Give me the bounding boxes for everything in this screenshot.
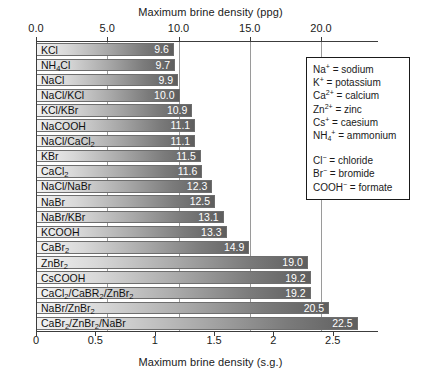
top-tick-label: 0.0 bbox=[28, 22, 43, 34]
bar-value-label: 11.1 bbox=[171, 136, 195, 147]
legend-cation-entry: Zn2+ = zinc bbox=[313, 103, 404, 116]
bar: 14.9 bbox=[37, 241, 249, 254]
bottom-tick-label: 2 bbox=[270, 334, 276, 346]
top-tick-label: 15.0 bbox=[239, 22, 260, 34]
bar-value-label: 19.2 bbox=[285, 288, 309, 299]
top-axis-tick-labels: 0.05.010.015.020.0 bbox=[0, 22, 421, 35]
bar-row: 22.5CaBr2/ZnBr2/NaBr bbox=[37, 317, 378, 330]
bar-row: 19.2CaCl2/CaBR2/ZnBr2 bbox=[37, 287, 378, 300]
bar-value-label: 13.3 bbox=[201, 227, 225, 238]
bar-value-label: 22.5 bbox=[332, 318, 356, 329]
bar-row: 19.0ZnBr2 bbox=[37, 256, 378, 269]
bar-value-label: 11.1 bbox=[171, 120, 195, 131]
bottom-tick-label: 0.5 bbox=[88, 334, 103, 346]
top-tick-label: 20.0 bbox=[310, 22, 331, 34]
bottom-axis-tick-labels: 00.511.522.5 bbox=[0, 334, 421, 347]
bar-row: 20.5NaBr/ZnBr2 bbox=[37, 302, 378, 315]
bar: 13.1 bbox=[37, 211, 224, 224]
brine-density-chart: Maximum brine density (ppg) 0.05.010.015… bbox=[0, 0, 421, 377]
bar-value-label: 10.0 bbox=[154, 90, 178, 101]
legend-cation-entry: Ca2+ = calcium bbox=[313, 89, 404, 102]
bar: 12.3 bbox=[37, 180, 212, 193]
bottom-tick-label: 0 bbox=[33, 334, 39, 346]
bar-value-label: 9.6 bbox=[154, 44, 173, 55]
top-tick-label: 10.0 bbox=[168, 22, 189, 34]
bar-value-label: 13.1 bbox=[198, 212, 222, 223]
top-axis-title: Maximum brine density (ppg) bbox=[0, 6, 421, 18]
bar: 19.0 bbox=[37, 256, 308, 269]
bottom-tick-label: 2.5 bbox=[325, 334, 340, 346]
bar-value-label: 14.9 bbox=[224, 242, 248, 253]
bar: 11.5 bbox=[37, 150, 201, 163]
bar: 12.5 bbox=[37, 195, 215, 208]
bottom-axis-line bbox=[36, 331, 378, 332]
bar-value-label: 19.2 bbox=[285, 273, 309, 284]
bar-row: 19.2CsCOOH bbox=[37, 271, 378, 284]
bar: 19.2 bbox=[37, 271, 311, 284]
bar: 19.2 bbox=[37, 287, 311, 300]
legend-cation-list: Na+ = sodiumK+ = potassiumCa2+ = calcium… bbox=[313, 63, 404, 143]
bar-value-label: 9.9 bbox=[158, 75, 177, 86]
legend-anion-entry: COOH− = formate bbox=[313, 181, 404, 194]
bottom-tick-label: 1 bbox=[152, 334, 158, 346]
bar: 9.7 bbox=[37, 59, 175, 72]
bar-value-label: 19.0 bbox=[282, 257, 306, 268]
bar: 9.6 bbox=[37, 43, 174, 56]
bar-value-label: 9.7 bbox=[156, 60, 175, 71]
legend-anion-entry: Cl− = chloride bbox=[313, 154, 404, 167]
bottom-axis-title: Maximum brine density (s.g.) bbox=[0, 356, 421, 368]
bar: 13.3 bbox=[37, 226, 227, 239]
bar-value-label: 12.3 bbox=[187, 181, 211, 192]
bar: 11.1 bbox=[37, 119, 195, 132]
bar-value-label: 11.5 bbox=[176, 151, 200, 162]
bar-row: 13.3KCOOH bbox=[37, 226, 378, 239]
legend-anion-entry: Br− = bromide bbox=[313, 167, 404, 180]
bar: 20.5 bbox=[37, 302, 329, 315]
legend-box: Na+ = sodiumK+ = potassiumCa2+ = calcium… bbox=[306, 57, 410, 200]
bar-value-label: 10.9 bbox=[167, 105, 191, 116]
legend-cation-entry: Na+ = sodium bbox=[313, 63, 404, 76]
legend-spacer bbox=[313, 143, 404, 154]
bar: 10.0 bbox=[37, 89, 180, 102]
legend-anion-list: Cl− = chlorideBr− = bromideCOOH− = forma… bbox=[313, 154, 404, 194]
bar: 11.6 bbox=[37, 165, 202, 178]
legend-cation-entry: NH4+ = ammonium bbox=[313, 129, 404, 143]
bar-row: 13.1NaBr/KBr bbox=[37, 211, 378, 224]
bottom-tick-label: 1.5 bbox=[206, 334, 221, 346]
legend-cation-entry: K+ = potassium bbox=[313, 76, 404, 89]
bar-value-label: 11.6 bbox=[178, 166, 202, 177]
bar: 9.9 bbox=[37, 74, 178, 87]
bar-row: 9.6KCl bbox=[37, 43, 378, 56]
bar-value-label: 20.5 bbox=[304, 303, 328, 314]
top-tick-label: 5.0 bbox=[100, 22, 115, 34]
bar: 10.9 bbox=[37, 104, 192, 117]
bar-value-label: 12.5 bbox=[190, 196, 214, 207]
bar: 11.1 bbox=[37, 135, 195, 148]
bar-row: 14.9CaBr2 bbox=[37, 241, 378, 254]
bar: 22.5 bbox=[37, 317, 358, 330]
legend-cation-entry: Cs+ = caesium bbox=[313, 116, 404, 129]
